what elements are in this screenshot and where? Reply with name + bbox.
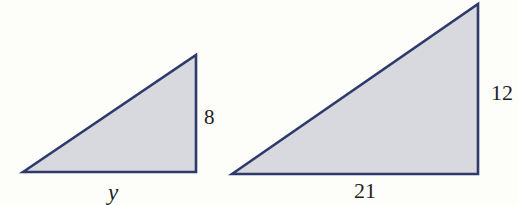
- diagram-canvas: [0, 0, 518, 205]
- similar-triangles-figure: y 8 21 12: [0, 0, 518, 205]
- large-triangle-height-label: 12: [491, 82, 513, 104]
- small-triangle-height-label: 8: [204, 107, 215, 128]
- small-triangle-base-label: y: [108, 181, 118, 204]
- large-triangle-base-label: 21: [354, 180, 376, 202]
